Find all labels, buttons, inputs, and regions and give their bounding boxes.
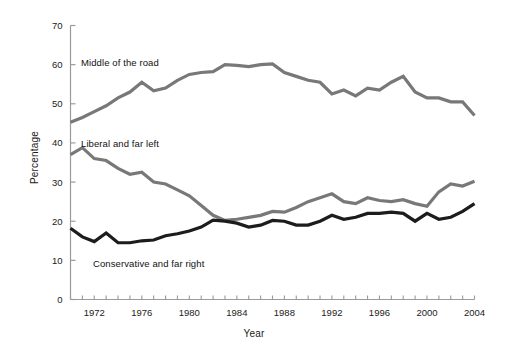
y-tick-label: 40 xyxy=(52,137,63,148)
series-label-conservative-and-far-right: Conservative and far right xyxy=(93,258,204,269)
y-tick-label: 0 xyxy=(57,294,62,305)
y-tick-label: 60 xyxy=(52,59,63,70)
y-tick-label: 50 xyxy=(52,98,63,109)
series-label-liberal-and-far-left: Liberal and far left xyxy=(81,138,159,149)
x-tick-label: 2000 xyxy=(416,307,437,318)
x-axis-title: Year xyxy=(0,328,508,339)
line-chart-plot: 0102030405060701972197619801984198819921… xyxy=(0,0,508,353)
x-tick-label: 1992 xyxy=(321,307,342,318)
series-line-2 xyxy=(71,204,475,243)
chart-figure: 0102030405060701972197619801984198819921… xyxy=(0,0,508,353)
x-tick-label: 1976 xyxy=(131,307,152,318)
x-tick-label: 1972 xyxy=(84,307,105,318)
series-line-1 xyxy=(71,148,475,221)
series-group xyxy=(71,64,475,243)
y-tick-label: 10 xyxy=(52,255,63,266)
y-tick-label: 70 xyxy=(52,20,63,31)
x-tick-label: 1996 xyxy=(369,307,390,318)
x-tick-label: 2004 xyxy=(464,307,485,318)
x-tick-label: 1984 xyxy=(226,307,247,318)
y-tick-label: 30 xyxy=(52,177,63,188)
x-tick-label: 1988 xyxy=(274,307,295,318)
y-tick-label: 20 xyxy=(52,216,63,227)
series-label-middle-of-the-road: Middle of the road xyxy=(81,57,159,68)
y-axis-title: Percentage xyxy=(29,118,40,198)
series-line-0 xyxy=(71,64,475,122)
x-tick-label: 1980 xyxy=(179,307,200,318)
